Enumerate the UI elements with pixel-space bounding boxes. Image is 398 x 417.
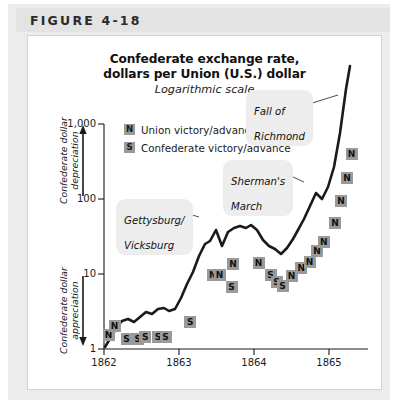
legend-label-union: Union victory/advance <box>141 124 257 136</box>
x-tick-label-1863: 1863 <box>159 357 199 368</box>
figure-number-label: FIGURE 4-18 <box>30 13 142 28</box>
annotation-fall-of-richmond: Fall of Richmond <box>246 90 313 146</box>
event-marker-union: N <box>227 258 239 270</box>
appreciation-label-line1: Confederate dollar <box>58 267 69 354</box>
event-marker-union: N <box>214 269 226 281</box>
chart-panel: Confederate exchange rate, dollars per U… <box>27 35 382 390</box>
confederate-marker-icon: S <box>124 142 135 153</box>
x-tick-label-1862: 1862 <box>84 357 124 368</box>
annotation-fr-line2: Richmond <box>254 131 305 142</box>
depreciation-axis-label: Confederate dollar depreciation <box>58 117 80 204</box>
figure-header-band: FIGURE 4-18 <box>16 8 390 32</box>
plot-area <box>28 36 381 389</box>
appreciation-axis-label: Confederate dollar appreciation <box>58 267 80 354</box>
annotation-gettysburg-vicksburg: Gettysburg/ Vicksburg <box>116 199 193 255</box>
annotation-gv-line2: Vicksburg <box>124 240 174 251</box>
event-marker-union: N <box>253 257 265 269</box>
annotation-gv-line1: Gettysburg/ <box>124 215 185 226</box>
appreciation-label-line2: appreciation <box>69 281 80 339</box>
event-marker-confederate: S <box>160 331 172 343</box>
y-axis-ticks <box>98 124 104 349</box>
event-marker-confederate: S <box>121 333 133 345</box>
event-marker-confederate: S <box>226 281 238 293</box>
event-marker-union: N <box>346 148 358 160</box>
event-marker-union: N <box>329 217 341 229</box>
annotation-sm-line1: Sherman's <box>231 176 285 187</box>
figure-frame: FIGURE 4-18 Confederate exchange rate, d… <box>8 4 390 400</box>
x-axis-ticks <box>104 349 329 355</box>
event-marker-union: N <box>341 172 353 184</box>
depreciation-arrow-icon <box>79 125 86 196</box>
event-marker-union: N <box>318 236 330 248</box>
event-marker-confederate: S <box>184 316 196 328</box>
event-marker-union: N <box>335 195 347 207</box>
event-marker-confederate: S <box>139 331 151 343</box>
annotation-sm-line2: March <box>231 201 262 212</box>
annotation-shermans-march: Sherman's March <box>223 160 293 216</box>
x-tick-label-1864: 1864 <box>234 357 274 368</box>
appreciation-arrow-icon <box>79 276 86 346</box>
union-marker-icon: N <box>124 124 135 135</box>
x-tick-label-1865: 1865 <box>309 357 349 368</box>
depreciation-label-line2: depreciation <box>69 131 80 189</box>
event-marker-union: N <box>109 320 121 332</box>
annotation-fr-line1: Fall of <box>254 106 285 117</box>
depreciation-label-line1: Confederate dollar <box>58 117 69 204</box>
event-marker-union: N <box>304 256 316 268</box>
